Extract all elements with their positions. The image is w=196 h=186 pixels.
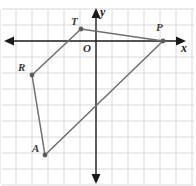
vertex-label-a: A <box>32 143 39 154</box>
vertex-dot-t <box>79 27 84 32</box>
vertex-label-t: T <box>71 16 78 27</box>
trap-outline <box>32 29 163 155</box>
vertex-dot-r <box>30 73 35 78</box>
y-axis-bottom-arrowhead <box>92 174 101 184</box>
vertex-dot-a <box>43 153 48 158</box>
origin-label: O <box>83 43 91 54</box>
x-axis-left-arrowhead <box>4 37 14 46</box>
vertex-dots <box>30 27 166 158</box>
quadrilateral-trap <box>32 29 163 155</box>
vertex-label-r: R <box>18 62 25 73</box>
coordinate-figure: T R A P O x y <box>0 0 196 186</box>
x-axis-label: x <box>181 42 187 54</box>
y-axis <box>92 8 101 184</box>
grid-lines <box>0 9 194 185</box>
coordinate-plane-svg <box>0 0 196 186</box>
y-axis-label: y <box>100 6 105 18</box>
vertex-label-p: P <box>156 22 163 33</box>
vertex-dot-p <box>161 39 166 44</box>
